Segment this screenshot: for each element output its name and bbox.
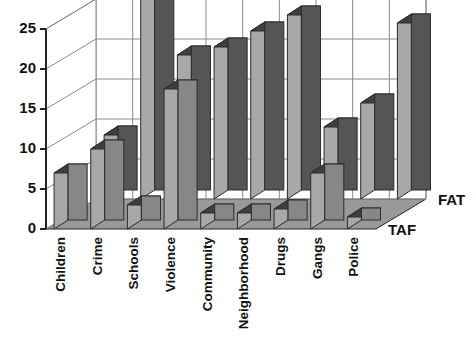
bar	[164, 80, 197, 229]
bar-side-face	[54, 164, 68, 229]
bar-side-face	[287, 6, 301, 199]
bar-side-face	[251, 22, 265, 199]
bar-front-face	[105, 140, 124, 220]
bar-side-face	[311, 164, 325, 229]
y-axis-tick-label: 25	[19, 19, 36, 36]
bar-side-face	[164, 80, 178, 229]
x-axis-category-label: Gangs	[310, 237, 325, 279]
bar-front-face	[361, 208, 380, 220]
bar-front-face	[215, 204, 234, 220]
y-axis-tick-label: 15	[19, 99, 36, 116]
x-axis-category-label: Crime	[90, 237, 105, 276]
chart-container: 0510152025ChildrenCrimeSchoolsViolenceCo…	[0, 0, 473, 363]
y-axis-tick-label: 0	[28, 219, 36, 236]
y-axis-tick-label: 20	[19, 59, 36, 76]
y-axis-tick-label: 10	[19, 139, 36, 156]
bar-side-face	[91, 140, 105, 229]
bar-front-face	[301, 6, 320, 190]
series-label-taf: TAF	[388, 221, 416, 238]
bar	[91, 140, 124, 229]
bar-front-face	[141, 196, 160, 220]
bar	[361, 94, 394, 199]
bar-front-face	[375, 94, 394, 190]
x-axis-category-label: Neighborhood	[236, 237, 251, 329]
bar	[214, 38, 247, 199]
bar-front-face	[68, 164, 87, 220]
x-axis-category-label: Drugs	[273, 237, 288, 276]
x-axis-category-label: Police	[346, 237, 361, 277]
bar	[397, 14, 430, 199]
y-axis-tick-label: 5	[28, 179, 36, 196]
bar-front-face	[178, 80, 197, 220]
bar-front-face	[288, 200, 307, 220]
bar-side-face	[214, 38, 228, 199]
x-axis-category-label: Children	[53, 237, 68, 292]
bar-front-face	[325, 164, 344, 220]
bar-front-face	[228, 38, 247, 190]
bar	[311, 164, 344, 229]
three-d-bar-chart: 0510152025ChildrenCrimeSchoolsViolenceCo…	[0, 0, 473, 363]
bar-front-face	[265, 22, 284, 190]
bar-side-face	[141, 0, 155, 199]
series-label-fat: FAT	[438, 191, 465, 208]
x-axis-category-label: Community	[200, 237, 215, 312]
bar-front-face	[411, 14, 430, 190]
bar-side-face	[397, 14, 411, 199]
bar-side-face	[361, 94, 375, 199]
bar-front-face	[251, 204, 270, 220]
bar	[251, 22, 284, 199]
x-axis-category-label: Schools	[126, 237, 141, 290]
x-axis-category-label: Violence	[163, 237, 178, 293]
bar	[54, 164, 87, 229]
